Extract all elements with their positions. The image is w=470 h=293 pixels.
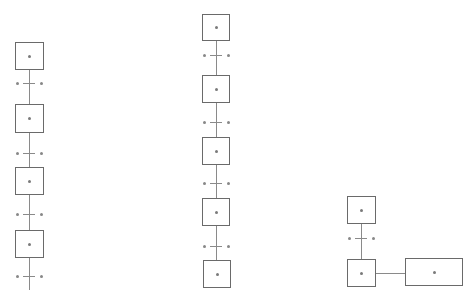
step-marker-icon [215, 150, 218, 153]
transition-condition-left-icon [348, 237, 351, 240]
step-box[interactable] [15, 230, 44, 258]
step-marker-icon [28, 180, 31, 183]
transition-condition-right-icon [227, 121, 230, 124]
step-box[interactable] [202, 75, 230, 103]
step-marker-icon [215, 211, 218, 214]
transition-bar [210, 55, 222, 56]
transition-bar [23, 153, 35, 154]
transition-bar [210, 183, 222, 184]
step-box[interactable] [15, 104, 44, 133]
transition-condition-right-icon [40, 275, 43, 278]
step-marker-icon [28, 117, 31, 120]
transition-condition-left-icon [16, 82, 19, 85]
transition-condition-right-icon [40, 82, 43, 85]
transition-condition-right-icon [40, 213, 43, 216]
transition-condition-left-icon [16, 213, 19, 216]
transition-condition-right-icon [372, 237, 375, 240]
transition-condition-left-icon [203, 121, 206, 124]
step-box[interactable] [15, 42, 44, 70]
step-box[interactable] [203, 260, 231, 288]
step-marker-icon [28, 243, 31, 246]
step-marker-icon [215, 88, 218, 91]
flow-line [361, 224, 362, 259]
step-box[interactable] [202, 198, 230, 226]
transition-bar [23, 276, 35, 277]
transition-condition-right-icon [227, 245, 230, 248]
action-marker-icon [433, 271, 436, 274]
transition-condition-left-icon [203, 182, 206, 185]
transition-condition-left-icon [16, 152, 19, 155]
step-box[interactable] [202, 14, 230, 41]
transition-condition-right-icon [227, 182, 230, 185]
transition-bar [210, 246, 222, 247]
step-box[interactable] [15, 167, 44, 195]
step-marker-icon [28, 55, 31, 58]
action-box[interactable] [405, 258, 463, 286]
step-marker-icon [360, 209, 363, 212]
transition-condition-right-icon [227, 54, 230, 57]
transition-condition-left-icon [16, 275, 19, 278]
step-box[interactable] [347, 259, 376, 287]
transition-bar [23, 214, 35, 215]
sfc-diagram [0, 0, 470, 293]
transition-condition-right-icon [40, 152, 43, 155]
step-marker-icon [215, 26, 218, 29]
step-marker-icon [360, 272, 363, 275]
step-box[interactable] [347, 196, 376, 224]
action-connector [376, 273, 405, 274]
transition-bar [355, 238, 367, 239]
transition-condition-left-icon [203, 54, 206, 57]
transition-bar [23, 83, 35, 84]
transition-condition-left-icon [203, 245, 206, 248]
step-box[interactable] [202, 137, 230, 165]
step-marker-icon [216, 273, 219, 276]
transition-bar [210, 122, 222, 123]
